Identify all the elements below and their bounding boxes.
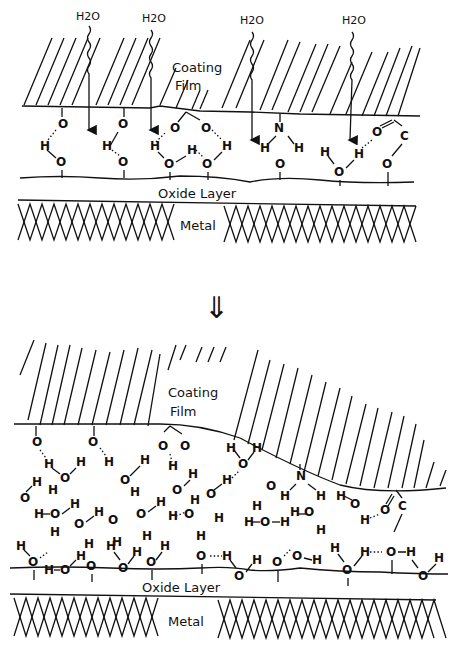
svg-text:O: O [56,155,66,169]
svg-text:O: O [196,549,206,563]
svg-text:H: H [76,549,86,563]
svg-text:H: H [160,539,170,553]
svg-text:O: O [202,157,212,171]
svg-text:O: O [32,435,42,449]
top-coating-label-1: Coating [172,60,222,75]
svg-text:O: O [350,497,360,511]
corrosion-diagram: Coating Film H2O H2O H2O H2O O H O O H O [0,0,460,648]
svg-text:O: O [60,563,70,577]
svg-text:O: O [184,507,194,521]
svg-text:H: H [187,143,197,157]
svg-text:H: H [188,467,198,481]
svg-text:H: H [434,551,444,565]
svg-text:H: H [190,493,200,507]
svg-text:H: H [150,139,160,153]
svg-text:H: H [360,513,370,527]
svg-text:H: H [252,499,262,513]
svg-text:H: H [360,545,370,559]
svg-text:H: H [130,485,140,499]
svg-text:H: H [196,529,206,543]
svg-text:H: H [132,545,142,559]
svg-text:O: O [292,549,302,563]
svg-text:O: O [50,507,60,521]
svg-text:O: O [304,505,314,519]
svg-text:H: H [168,459,178,473]
svg-text:H: H [140,453,150,467]
svg-text:O: O [386,545,396,559]
svg-text:H: H [406,545,416,559]
svg-text:O: O [158,439,168,453]
svg-text:O: O [88,435,98,449]
svg-text:O: O [118,155,128,169]
bottom-oxide-surface [10,567,448,574]
svg-text:O: O [275,157,285,171]
water-label-2: H2O [142,12,166,25]
svg-text:H: H [354,147,364,161]
top-coating-label-2: Film [175,78,201,93]
svg-text:H: H [214,511,224,525]
svg-text:H: H [316,489,326,503]
svg-text:O: O [418,569,428,583]
svg-text:N: N [274,121,284,135]
svg-text:H: H [294,141,304,155]
svg-text:O: O [60,471,70,485]
svg-text:C: C [400,129,409,143]
svg-text:H: H [252,553,262,567]
svg-text:O: O [136,507,146,521]
top-oxide-surface [20,176,414,183]
svg-text:O: O [58,117,68,131]
svg-text:H: H [32,475,42,489]
svg-text:H: H [222,473,232,487]
svg-text:H: H [260,141,270,155]
svg-text:N: N [296,469,306,483]
top-molecules: O H O O H O O O H O H O H N [40,108,409,186]
svg-text:H: H [316,523,326,537]
svg-text:O: O [86,559,96,573]
svg-text:H: H [312,553,322,567]
svg-text:O: O [382,157,392,171]
svg-text:H: H [94,505,104,519]
svg-text:O: O [372,125,382,139]
svg-text:O: O [260,515,270,529]
svg-text:O: O [74,517,84,531]
bottom-metal-hatch [14,598,446,638]
svg-text:O: O [201,121,211,135]
svg-text:O: O [172,483,182,497]
water-label-3: H2O [240,14,264,27]
svg-text:H: H [222,139,232,153]
svg-text:O: O [164,157,174,171]
svg-text:O: O [272,555,282,569]
svg-text:H: H [76,455,86,469]
svg-text:O: O [334,165,344,179]
transition-arrow-icon: ⇓ [204,290,229,325]
svg-text:H: H [226,441,236,455]
svg-text:O: O [120,473,130,487]
svg-text:H: H [280,515,290,529]
top-panel: Coating Film H2O H2O H2O H2O O H O O H O [18,10,420,242]
svg-text:O: O [108,513,118,527]
bottom-coating-label-1: Coating [168,385,218,400]
svg-text:H: H [48,483,58,497]
top-metal-label: Metal [180,218,216,233]
bottom-panel: Coating Film O H O H H O H O H H O O H O… [10,340,448,638]
svg-text:O: O [146,555,156,569]
top-coating-boundary [22,106,420,116]
top-oxide-label: Oxide Layer [158,186,237,201]
svg-text:O: O [342,563,352,577]
water-label-4: H2O [342,14,366,27]
svg-text:H: H [142,529,152,543]
bottom-coating-label-2: Film [170,404,196,419]
svg-text:H: H [280,489,290,503]
svg-text:H: H [156,495,166,509]
svg-text:O: O [20,491,30,505]
bottom-oxide-label: Oxide Layer [142,580,221,595]
svg-text:H: H [50,525,60,539]
bottom-metal-label: Metal [168,614,204,629]
top-metal-hatch [18,204,416,242]
top-coating-film-hatch [24,38,420,116]
svg-text:O: O [238,457,248,471]
svg-text:H: H [330,541,340,555]
svg-text:H: H [252,441,262,455]
svg-text:O: O [180,439,190,453]
svg-text:H: H [106,539,116,553]
